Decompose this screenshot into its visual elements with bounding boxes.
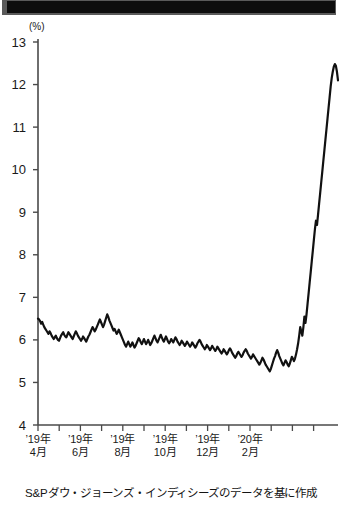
x-axis-tick-label: ’20年2月 [218, 433, 282, 459]
x-axis-tick-label-year: ’19年 [68, 433, 93, 445]
y-axis-unit-label: (%) [29, 21, 45, 32]
x-axis-ticks [38, 425, 314, 431]
data-series-line [38, 64, 338, 371]
top-black-bar-outer [2, 0, 336, 15]
x-axis-tick-label-year: ’20年 [238, 433, 263, 445]
top-black-bar-inner [7, 1, 335, 13]
x-axis-tick-label-year: ’19年 [195, 433, 220, 445]
x-axis-tick-label-year: ’19年 [26, 433, 51, 445]
y-axis-tick-label: 7 [4, 291, 26, 304]
y-axis-tick-label: 11 [4, 121, 26, 134]
y-axis-tick-label: 8 [4, 248, 26, 261]
top-black-bar [0, 0, 342, 17]
y-axis-tick-label: 9 [4, 206, 26, 219]
y-axis-tick-label: 10 [4, 163, 26, 176]
y-axis-tick-label: 12 [4, 78, 26, 91]
chart-plot-svg [0, 17, 342, 485]
chart-source-caption: S&Pダウ・ジョーンズ・インディシーズのデータを基に作成 [0, 486, 342, 501]
line-chart: (%) 13121110987654 ’19年4月’19年6月’19年8月’19… [0, 17, 342, 485]
x-axis-tick-label-month: 2月 [218, 446, 282, 459]
screenshot-root: (%) 13121110987654 ’19年4月’19年6月’19年8月’19… [0, 0, 342, 509]
y-axis-tick-label: 4 [4, 419, 26, 432]
x-axis-tick-label-year: ’19年 [110, 433, 135, 445]
y-axis-tick-label: 13 [4, 36, 26, 49]
y-axis-tick-label: 6 [4, 333, 26, 346]
y-axis-tick-label: 5 [4, 376, 26, 389]
x-axis-tick-label-year: ’19年 [153, 433, 178, 445]
